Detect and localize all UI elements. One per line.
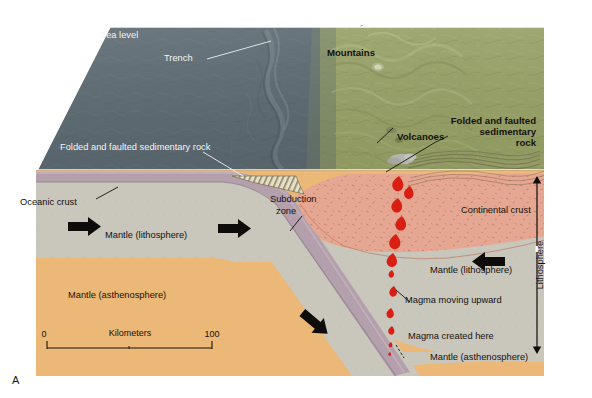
panel-letter: A [12, 374, 20, 386]
diagram-canvas: Sea level Trench Folded and faulted sedi… [0, 0, 592, 398]
label-continental-crust: Continental crust [461, 205, 531, 215]
scale-min-label: 0 [41, 329, 46, 339]
subduction-zone-block-diagram: Sea level Trench Folded and faulted sedi… [0, 0, 592, 398]
label-volcanoes: Volcanoes [397, 131, 444, 142]
label-mantle-lithosphere-right: Mantle (lithosphere) [430, 265, 512, 275]
label-lithosphere-bracket: Lithosphere [535, 241, 545, 290]
scale-max-label: 100 [204, 329, 219, 339]
label-folded-sed-rock-land-line1: Folded and faulted [451, 115, 536, 126]
scale-units-label: Kilometers [109, 328, 152, 338]
label-folded-sed-rock-land-line2: sedimentary [479, 126, 536, 137]
label-subduction-zone-line1: Subduction [270, 194, 317, 204]
label-mountains: Mountains [327, 47, 375, 58]
label-folded-sed-rock-land-line3: rock [516, 137, 537, 148]
label-mantle-asthenosphere-left: Mantle (asthenosphere) [68, 290, 166, 300]
label-trench: Trench [164, 53, 193, 63]
label-folded-sed-rock-ocean: Folded and faulted sedimentary rock [60, 142, 211, 152]
label-subduction-zone-line2: zone [276, 206, 296, 216]
label-mantle-lithosphere-left: Mantle (lithosphere) [105, 230, 187, 240]
label-magma-created-here: Magma created here [408, 331, 494, 341]
label-mantle-asthenosphere-right: Mantle (asthenosphere) [430, 352, 528, 362]
label-magma-moving-upward: Magma moving upward [405, 295, 502, 305]
label-oceanic-crust: Oceanic crust [20, 197, 77, 207]
label-sea-level: Sea level [100, 30, 138, 40]
